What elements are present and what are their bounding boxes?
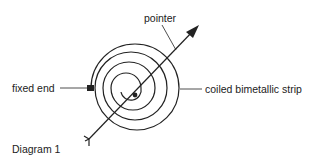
diagram-caption: Diagram 1 (12, 143, 60, 155)
coil-label: coiled bimetallic strip (205, 83, 302, 95)
pointer-shaft (89, 30, 194, 139)
pointer-label: pointer (144, 12, 176, 24)
pointer-leader (162, 25, 176, 50)
fixed-end-block (87, 85, 94, 91)
fixed-end-label: fixed end (12, 82, 55, 94)
pointer-tail (84, 136, 89, 146)
coiled-bimetallic-strip (91, 44, 179, 130)
pivot-dot (133, 93, 138, 98)
bimetallic-coil-diagram (0, 0, 328, 161)
